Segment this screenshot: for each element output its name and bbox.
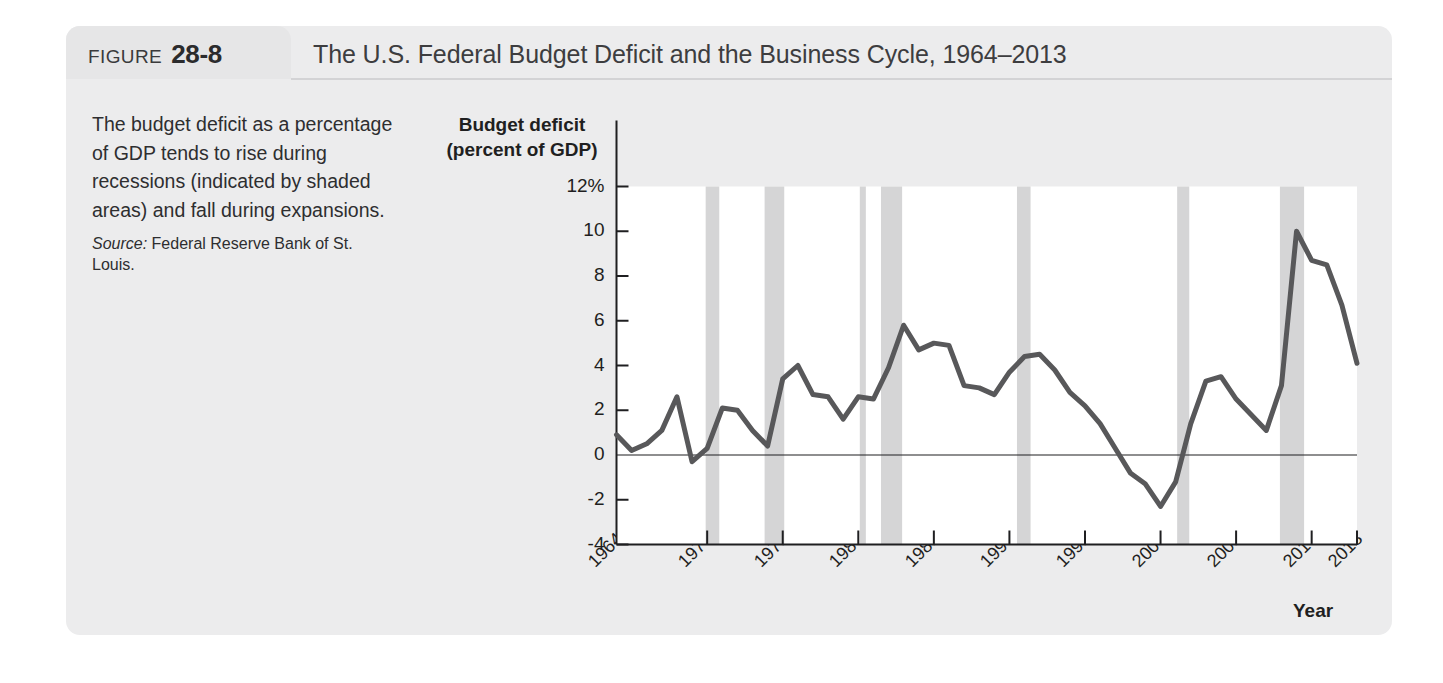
caption-block: The budget deficit as a percentage of GD… (92, 110, 397, 275)
figure-number: 28-8 (171, 39, 222, 70)
figure-label: FIGURE (88, 46, 162, 68)
caption-source: Source: Federal Reserve Bank of St. Loui… (92, 233, 397, 275)
figure-number-tab: FIGURE 28-8 (66, 26, 291, 79)
source-label: Source: (92, 235, 147, 252)
figure-tab-content: FIGURE 28-8 (88, 39, 222, 70)
title-divider (291, 78, 1392, 80)
page-title: The U.S. Federal Budget Deficit and the … (313, 40, 1067, 69)
figure-root: FIGURE 28-8 The U.S. Federal Budget Defi… (0, 0, 1443, 683)
caption-body: The budget deficit as a percentage of GD… (92, 110, 397, 224)
